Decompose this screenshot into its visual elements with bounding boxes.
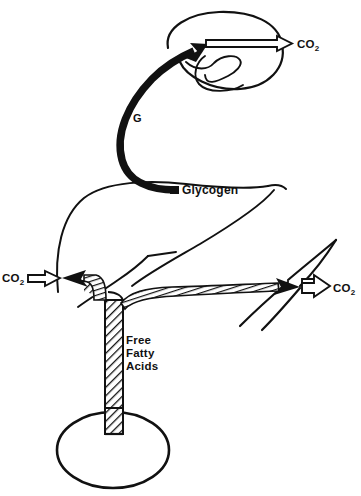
figure-caption [8, 487, 358, 496]
left-co2-label: CO2 [2, 272, 25, 287]
arrow-brain-co2 [206, 36, 292, 51]
brain-co2-label: CO2 [297, 38, 320, 53]
arrow-left-muscle-co2 [28, 271, 60, 286]
free-fatty-acids-label: Free Fatty Acids [126, 334, 158, 372]
ffa-line-2: Fatty [126, 347, 155, 359]
ffa-line-1: Free [126, 334, 151, 346]
metabolic-flow-diagram: CO2 G Glycogen [0, 0, 361, 496]
arrow-right-muscle-co2 [301, 275, 330, 297]
organ-adipose-tissue [57, 408, 169, 488]
glucose-label: G [133, 112, 142, 124]
figure-root: CO2 G Glycogen [0, 0, 361, 496]
ffa-line-3: Acids [126, 360, 158, 372]
right-co2-label: CO2 [333, 282, 356, 297]
